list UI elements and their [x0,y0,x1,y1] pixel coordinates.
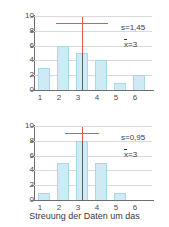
gridline-10-2 [34,126,152,127]
mean-annotation-1: x=3 [124,40,137,49]
bar-1 [38,193,50,200]
sd-annotation-2: s=0,95 [121,133,145,142]
bar-5 [114,193,126,200]
bar-1 [38,68,50,90]
dispersion-figure: 10 8 6 4 2 0 1 2 3 4 5 6 s=1,45 x=3 [0,0,169,227]
gridline-4-1 [34,60,152,61]
mean-line-2 [82,127,83,141]
x-axis-line-1 [34,90,154,91]
gridline-10-1 [34,16,152,17]
gridline-4-2 [34,170,152,171]
mean-annotation-2: x=3 [124,150,137,159]
sd-whisker-1 [56,23,108,24]
xtick-label-3-1: 3 [70,93,86,102]
mean-line-overlap-2 [82,141,83,201]
bar-2 [57,163,69,200]
bar-4 [95,60,107,90]
bar-6 [133,75,145,90]
mean-symbol-1: x [124,40,128,49]
xtick-label-6-1: 6 [127,93,143,102]
mean-value-1: =3 [128,40,137,49]
mean-symbol-2: x [124,150,128,159]
gridline-2-2 [34,185,152,186]
xtick-label-4-1: 4 [89,93,105,102]
figure-caption: Streuung der Daten um das [0,211,169,222]
x-axis-line-2 [34,200,154,201]
bar-5 [114,83,126,90]
xtick-label-2-1: 2 [51,93,67,102]
bar-4 [95,163,107,200]
sd-annotation-1: s=1,45 [121,23,145,32]
mean-value-2: =3 [128,150,137,159]
bar-2 [57,46,69,90]
mean-line-overlap-1 [82,53,83,91]
xtick-label-5-1: 5 [108,93,124,102]
xtick-label-1-1: 1 [32,93,48,102]
histogram-chart-1: 10 8 6 4 2 0 1 2 3 4 5 6 s=1,45 x=3 [0,2,169,110]
histogram-chart-2: 10 8 6 4 2 0 1 2 3 4 5 6 s=0,95 x=3 [0,112,169,220]
sd-whisker-2 [65,133,99,134]
